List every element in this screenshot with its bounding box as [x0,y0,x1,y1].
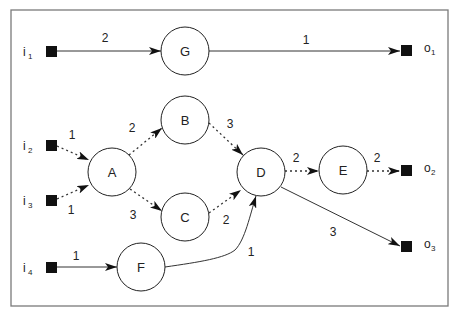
weight-i4-F: 1 [73,249,80,263]
weight-i1-G: 2 [102,31,109,45]
node-label: F [137,260,145,275]
node-D: D [237,148,285,196]
port-letter: o [424,41,431,55]
weight-i3-A: 1 [68,203,75,217]
input-i4: i 4 [23,261,57,277]
node-label: B [181,113,190,128]
node-label: G [180,44,190,59]
graph-diagram: 2 1 1 1 2 3 3 2 2 2 3 1 1 G B A C [0,0,461,315]
port-subscript: 2 [431,168,436,177]
node-F: F [117,243,165,291]
node-C: C [161,193,209,241]
input-port-square [46,46,57,57]
port-subscript: 1 [431,48,436,57]
output-o1: o 1 [401,41,436,57]
node-label: A [108,165,117,180]
weight-A-B: 2 [129,121,136,135]
input-i3: i 3 [23,194,57,210]
weight-B-D: 3 [227,117,234,131]
node-label: E [339,163,348,178]
edge-i2-A [57,146,89,160]
input-port-square [46,140,57,151]
output-port-square [401,165,412,176]
node-G: G [161,27,209,75]
input-port-square [46,195,57,206]
port-subscript: 3 [28,201,33,210]
input-ports: i 1 i 2 i 3 i 4 [23,45,57,277]
weight-G-o1: 1 [303,33,310,47]
weight-D-o3: 3 [330,225,337,239]
output-ports: o 1 o 2 o 3 [401,41,436,253]
node-label: C [180,210,189,225]
weight-C-D: 2 [223,213,230,227]
weight-A-C: 3 [130,208,137,222]
edge-weights: 2 1 1 1 2 3 3 2 2 2 3 1 1 [68,31,381,263]
edge-i3-A [57,185,89,199]
port-letter: i [23,45,26,59]
node-A: A [88,148,136,196]
weight-D-E: 2 [293,151,300,165]
node-label: D [256,165,265,180]
input-port-square [46,262,57,273]
port-subscript: 2 [28,146,33,155]
weight-F-D: 1 [248,245,255,259]
port-letter: i [23,139,26,153]
port-subscript: 1 [28,52,33,61]
weight-E-o2: 2 [374,151,381,165]
edge-C-D [209,190,241,213]
output-o3: o 3 [401,237,436,253]
node-B: B [161,96,209,144]
nodes: G B A C D E F [88,27,367,291]
edge-D-o3 [281,187,400,246]
port-letter: i [23,261,26,275]
port-letter: o [424,237,431,251]
weight-i2-A: 1 [69,128,76,142]
node-E: E [319,146,367,194]
output-o2: o 2 [401,161,436,177]
port-subscript: 4 [28,268,33,277]
port-letter: i [23,194,26,208]
port-subscript: 3 [431,244,436,253]
input-i2: i 2 [23,139,57,155]
output-port-square [401,241,412,252]
input-i1: i 1 [23,45,57,61]
output-port-square [401,45,412,56]
port-letter: o [424,161,431,175]
